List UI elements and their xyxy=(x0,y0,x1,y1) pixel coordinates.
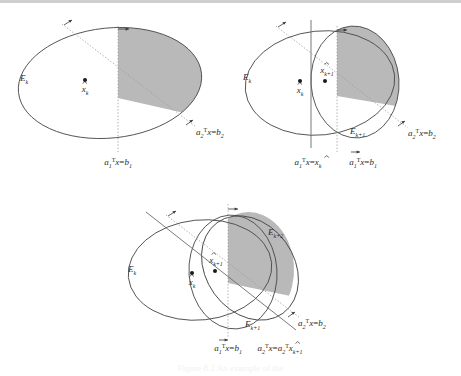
panel-3-center-dot-k1 xyxy=(213,269,217,273)
panel-2-arrow-a1-label xyxy=(351,150,360,153)
panel-3-arrow-a1 xyxy=(228,207,238,210)
panel-2-label-a2-eq: a2Tx=b2 xyxy=(408,128,436,140)
panel-1-tick-a2 xyxy=(64,20,72,25)
panel-2-label-Ek: Ek xyxy=(242,72,252,84)
panel-1-label-a2-eq: a2Tx=b2 xyxy=(196,127,224,139)
panel-3-label-a1-eq: a1Tx=b1 xyxy=(214,343,242,355)
svg-text:xk: xk xyxy=(188,277,196,289)
panel-1: Ek xk a1Tx=b1 a2Tx=b2 xyxy=(13,19,224,169)
svg-text:xk+1: xk+1 xyxy=(319,65,334,77)
panel-1-label-Ek: Ek xyxy=(19,73,29,85)
panel-2-label-Ek1: Ek+1 xyxy=(349,126,365,138)
svg-text:a2Tx=a2Txk+1: a2Tx=a2Txk+1 xyxy=(257,343,302,355)
panel-3-tick-a2-label xyxy=(288,312,295,317)
panel-1-label-xhat-k: xk xyxy=(81,82,89,96)
svg-text:xk: xk xyxy=(296,85,304,97)
panel-2-label-a1-eq: a1Tx=b1 xyxy=(349,157,377,169)
panel-1-label-a1-eq: a1Tx=b1 xyxy=(104,157,132,169)
panel-3: Ek Ek+1 Ek+2 xk xk+1 a1Tx=b1 xyxy=(123,197,326,355)
panel-2-label-xhat-k: xk xyxy=(296,83,304,97)
figure-ellipsoid-method: Ek xk a1Tx=b1 a2Tx=b2 xyxy=(0,0,461,376)
panel-2-center-dot-k1 xyxy=(323,79,327,83)
panel-3-arrow-a1-label xyxy=(219,338,228,341)
panel-3-label-xhat-k1: xk+1 xyxy=(208,253,223,267)
panel-2-tick-a2-label xyxy=(398,121,405,126)
panel-3-tick-a2 xyxy=(168,211,176,216)
panel-3-label-a2-center-eq: a2Tx=a2Txk+1 xyxy=(257,342,302,355)
panel-2: Ek Ek+1 xk xk+1 a1Tx=xk a1 xyxy=(240,20,436,169)
panel-3-label-a2-eq: a2Tx=b2 xyxy=(298,318,326,330)
panel-2-tick-a2 xyxy=(278,22,286,27)
panel-2-label-xhat-k1: xk+1 xyxy=(319,63,334,77)
panel-2-label-a1-center-eq: a1Tx=xk xyxy=(295,156,329,169)
figure-caption: Figure 8.2 An example of the xyxy=(0,361,461,376)
panel-3-label-Ek: Ek xyxy=(127,264,137,276)
svg-text:xk+1: xk+1 xyxy=(208,255,223,267)
panel-1-shaded-region xyxy=(118,20,215,120)
svg-text:a1Tx=xk: a1Tx=xk xyxy=(295,157,322,169)
panel-3-label-xhat-k: xk xyxy=(188,275,196,289)
svg-text:xk: xk xyxy=(81,84,89,96)
